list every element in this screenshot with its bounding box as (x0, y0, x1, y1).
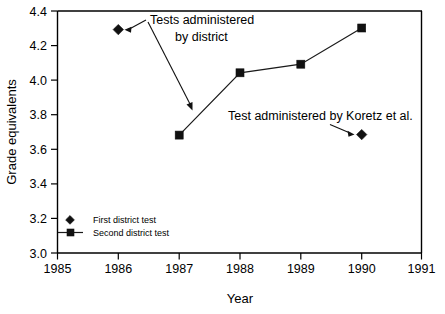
y-tick-label-4.2: 4.2 (30, 39, 47, 53)
chart-canvas: 4.4 4.2 4.0 3.8 3.6 3.4 3.2 3.0 1985 198… (0, 0, 445, 314)
x-tick-label-1986: 1986 (104, 262, 132, 276)
legend-item-second-district-test[interactable]: Second district test (58, 228, 170, 238)
district-annotation-line2: by district (175, 30, 228, 44)
x-tick-label-1987: 1987 (165, 262, 193, 276)
x-tick-label-1990: 1990 (348, 262, 376, 276)
x-axis-tick-labels: 1985 1986 1987 1988 1989 1990 1991 (44, 262, 436, 276)
y-axis-title: Grade equivalents (4, 79, 19, 185)
y-tick-label-3.4: 3.4 (30, 177, 47, 191)
y-tick-label-3.0: 3.0 (30, 247, 47, 261)
data-point-1987-second (175, 131, 183, 139)
chart-legend: First district test Second district test (58, 215, 170, 238)
y-tick-label-4.0: 4.0 (30, 74, 47, 88)
y-axis-ticks (51, 11, 58, 253)
district-annotation: Tests administered by district (125, 13, 255, 111)
koretz-annotation-leader (330, 125, 350, 134)
legend-marker-diamond-icon (66, 216, 75, 225)
koretz-annotation: Test administered by Koretz et al. (228, 109, 413, 137)
data-point-1986-first (113, 24, 123, 34)
district-annotation-arrowhead-down (187, 102, 193, 111)
district-annotation-line1: Tests administered (150, 13, 254, 27)
x-tick-label-1985: 1985 (44, 262, 72, 276)
legend-label-second-district-test: Second district test (93, 228, 170, 238)
data-point-1988-second (236, 69, 244, 77)
x-tick-label-1991: 1991 (408, 262, 436, 276)
koretz-annotation-line1: Test administered by Koretz et al. (228, 109, 413, 123)
y-tick-label-3.8: 3.8 (30, 108, 47, 122)
y-tick-label-3.6: 3.6 (30, 143, 47, 157)
x-tick-label-1988: 1988 (226, 262, 254, 276)
x-axis-ticks (58, 253, 422, 260)
x-axis-title: Year (227, 291, 254, 306)
legend-item-first-district-test[interactable]: First district test (66, 215, 157, 225)
data-point-1990-second (358, 24, 366, 32)
data-point-1990-first (357, 129, 367, 139)
y-tick-label-3.2: 3.2 (30, 212, 47, 226)
data-point-1989-second (297, 60, 305, 68)
legend-label-first-district-test: First district test (93, 215, 157, 225)
x-tick-label-1989: 1989 (287, 262, 315, 276)
y-tick-label-4.4: 4.4 (30, 5, 47, 19)
chart-figure: 4.4 4.2 4.0 3.8 3.6 3.4 3.2 3.0 1985 198… (0, 0, 445, 314)
y-axis-tick-labels: 4.4 4.2 4.0 3.8 3.6 3.4 3.2 3.0 (30, 5, 47, 261)
legend-marker-square-icon (67, 229, 74, 236)
district-annotation-arrowhead-left (125, 27, 132, 33)
koretz-annotation-arrowhead (348, 131, 355, 137)
